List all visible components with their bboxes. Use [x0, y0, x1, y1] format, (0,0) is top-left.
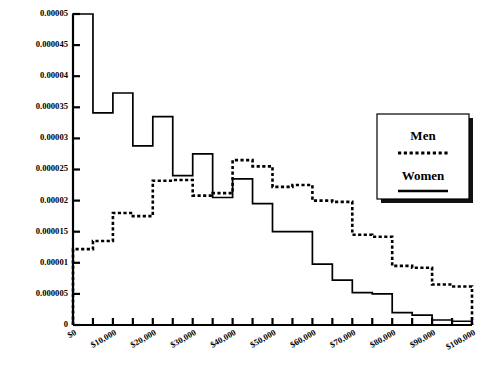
x-axis-tick-labels: $0$10,000$20,000$30,000$40,000$50,000$60… [66, 327, 477, 352]
x-axis-tick-label: $0 [66, 327, 78, 340]
y-axis-tick-label: 0.00001 [40, 257, 68, 267]
legend-label-women: Women [402, 168, 445, 183]
y-axis-tick-label: 0.000015 [36, 226, 68, 236]
x-axis-tick-label: $70,000 [328, 327, 357, 350]
y-axis-tick-label: 0.000025 [36, 163, 68, 173]
y-axis-tick-label: 0.00002 [40, 195, 68, 205]
y-axis-tick-labels: 00.0000050.000010.0000150.000020.0000250… [36, 8, 69, 329]
x-axis-ticks [73, 318, 472, 325]
y-axis-tick-label: 0.000035 [36, 101, 68, 111]
x-axis-tick-label: $30,000 [169, 327, 198, 350]
y-axis-tick-label: 0.00004 [40, 70, 69, 80]
y-axis-tick-label: 0.000045 [36, 39, 68, 49]
chart-canvas: 00.0000050.000010.0000150.000020.0000250… [0, 0, 489, 371]
x-axis-tick-label: $10,000 [89, 327, 118, 350]
legend-box [377, 114, 469, 199]
legend-label-men: Men [410, 128, 436, 143]
x-axis-tick-label: $100,000 [444, 327, 477, 352]
x-axis-tick-label: $90,000 [408, 327, 437, 350]
y-axis-tick-label: 0.000005 [36, 288, 68, 298]
x-axis-tick-label: $60,000 [288, 327, 317, 350]
y-axis-tick-label: 0 [64, 319, 68, 329]
x-axis-tick-label: $80,000 [368, 327, 397, 350]
y-axis-tick-label: 0.00003 [40, 132, 68, 142]
x-axis-tick-label: $40,000 [208, 327, 237, 350]
histogram-chart: 00.0000050.000010.0000150.000020.0000250… [0, 0, 489, 371]
x-axis-tick-label: $20,000 [129, 327, 158, 350]
chart-legend: Men Women [377, 114, 473, 203]
x-axis-tick-label: $50,000 [248, 327, 277, 350]
y-axis-tick-label: 0.00005 [40, 8, 68, 18]
